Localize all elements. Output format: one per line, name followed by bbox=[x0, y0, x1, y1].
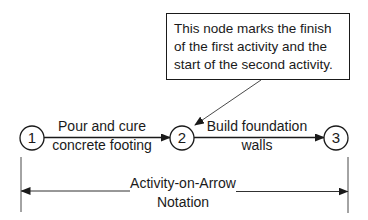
node-label: 1 bbox=[28, 129, 36, 146]
notation-span: Activity-on-Arrow Notation bbox=[21, 157, 348, 213]
activity-on-arrow-diagram: This node marks the finish of the first … bbox=[0, 0, 368, 220]
callout-line-1: This node marks the finish bbox=[174, 21, 332, 36]
callout: This node marks the finish of the first … bbox=[167, 14, 350, 126]
activity-label-2-3-line-2: walls bbox=[240, 137, 272, 153]
node-label: 2 bbox=[178, 129, 186, 146]
node-3: 3 bbox=[324, 126, 348, 150]
activity-label-1-2-line-1: Pour and cure bbox=[58, 118, 146, 134]
node-label: 3 bbox=[332, 129, 340, 146]
activity-1-2: Pour and cure concrete footing bbox=[44, 118, 170, 153]
callout-line-2: of the first activity and the bbox=[174, 39, 327, 54]
callout-line-3: start of the second activity. bbox=[174, 57, 333, 72]
activity-label-1-2-line-2: concrete footing bbox=[52, 137, 152, 153]
node-1: 1 bbox=[20, 126, 44, 150]
activity-label-2-3-line-1: Build foundation bbox=[207, 118, 307, 134]
node-2: 2 bbox=[170, 126, 194, 150]
activity-2-3: Build foundation walls bbox=[194, 118, 324, 153]
notation-line-2: Notation bbox=[157, 194, 209, 210]
notation-line-1: Activity-on-Arrow bbox=[130, 175, 237, 191]
